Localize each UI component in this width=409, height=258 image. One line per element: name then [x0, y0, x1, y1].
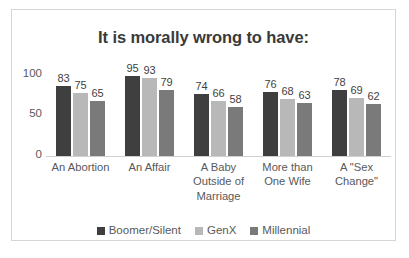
bar[interactable] [332, 90, 347, 156]
bar[interactable] [56, 86, 71, 156]
legend-swatch-icon [97, 227, 105, 235]
bar-slot: 79 [159, 72, 174, 156]
bar-value-label: 62 [359, 91, 389, 102]
bar-slot: 74 [194, 72, 209, 156]
bar[interactable] [263, 92, 278, 156]
bar[interactable] [211, 101, 226, 156]
bar[interactable] [280, 99, 295, 156]
bar-value-label: 58 [221, 94, 251, 105]
x-axis-labels: An AbortionAn AffairA BabyOutside ofMarr… [46, 160, 391, 203]
bar[interactable] [228, 107, 243, 156]
bar[interactable] [125, 76, 140, 156]
bar[interactable] [73, 93, 88, 156]
chart-frame: It is morally wrong to have: 100 50 0 83… [11, 9, 396, 241]
bar-groups: 837565959379746658766863786962 [46, 72, 391, 156]
bar-slot: 95 [125, 72, 140, 156]
bar-group: 746658 [184, 72, 253, 156]
bar-slot: 63 [297, 72, 312, 156]
legend-item[interactable]: GenX [195, 225, 236, 237]
x-axis-category-label: A "SexChange" [322, 160, 391, 203]
y-axis-tick-0: 0 [12, 149, 42, 161]
bar-group: 766863 [253, 72, 322, 156]
legend-item[interactable]: Millennial [250, 225, 310, 237]
legend-label: Millennial [262, 225, 310, 237]
x-axis-category-label: An Abortion [46, 160, 115, 203]
legend-item[interactable]: Boomer/Silent [97, 225, 181, 237]
bar-slot: 68 [280, 72, 295, 156]
bar[interactable] [349, 98, 364, 156]
bar-group: 959379 [115, 72, 184, 156]
x-axis-baseline [46, 156, 391, 157]
bar-slot: 69 [349, 72, 364, 156]
bar[interactable] [90, 101, 105, 156]
bar-slot: 65 [90, 72, 105, 156]
x-axis-category-label: An Affair [115, 160, 184, 203]
legend-label: GenX [207, 225, 236, 237]
bar-slot: 58 [228, 72, 243, 156]
bar[interactable] [159, 90, 174, 156]
bar-group: 786962 [322, 72, 391, 156]
bar[interactable] [142, 78, 157, 156]
chart-legend: Boomer/SilentGenXMillennial [12, 225, 395, 237]
bar-value-label: 79 [152, 77, 182, 88]
legend-swatch-icon [250, 227, 258, 235]
bar-slot: 62 [366, 72, 381, 156]
bar-slot: 66 [211, 72, 226, 156]
y-axis: 100 50 0 [12, 68, 42, 160]
bar-slot: 76 [263, 72, 278, 156]
x-axis-category-label: A BabyOutside ofMarriage [184, 160, 253, 203]
legend-label: Boomer/Silent [109, 225, 181, 237]
bar-value-label: 65 [83, 88, 113, 99]
bar[interactable] [366, 104, 381, 156]
bar[interactable] [194, 94, 209, 156]
bar-slot: 75 [73, 72, 88, 156]
bar-group: 837565 [46, 72, 115, 156]
bar[interactable] [297, 103, 312, 156]
y-axis-tick-100: 100 [12, 68, 42, 80]
x-axis-category-label: More thanOne Wife [253, 160, 322, 203]
chart-title: It is morally wrong to have: [12, 28, 395, 47]
y-axis-tick-50: 50 [12, 108, 42, 120]
legend-swatch-icon [195, 227, 203, 235]
bar-value-label: 63 [290, 90, 320, 101]
